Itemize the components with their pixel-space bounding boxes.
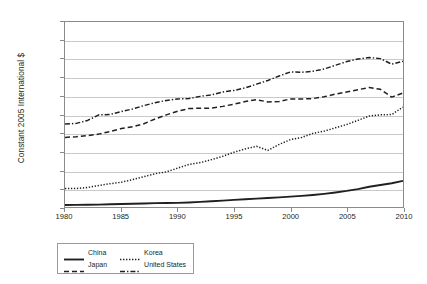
plot-area <box>64 21 404 208</box>
legend-label: United States <box>144 261 186 268</box>
x-axis-tick <box>64 208 65 212</box>
chart-figure: Constant 2005 International $ 05,00010,0… <box>0 0 427 284</box>
series-lines <box>65 22 403 207</box>
legend-item: United States <box>120 260 186 269</box>
x-axis-tick-label: 2000 <box>271 212 311 221</box>
legend-key-japan <box>64 261 84 268</box>
legend-item: Korea <box>120 248 186 257</box>
x-axis-tick-label: 1990 <box>157 212 197 221</box>
x-axis-tick <box>404 208 405 212</box>
series-line-united-states <box>65 58 403 125</box>
legend-item: China <box>64 248 107 257</box>
legend-label: Korea <box>144 249 163 256</box>
series-line-korea <box>65 107 403 188</box>
x-axis-tick-label: 1985 <box>101 212 141 221</box>
legend-item: Japan <box>64 260 107 269</box>
x-axis-tick-label: 2010 <box>384 212 424 221</box>
legend-key-united-states <box>120 261 140 268</box>
legend-key-china <box>64 249 84 256</box>
x-axis-tick <box>291 208 292 212</box>
x-axis-tick <box>234 208 235 212</box>
legend-label: China <box>88 249 106 256</box>
x-axis-tick-label: 1980 <box>44 212 84 221</box>
x-axis-tick-label: 1995 <box>214 212 254 221</box>
x-axis-tick-label: 2005 <box>327 212 367 221</box>
x-axis-tick <box>121 208 122 212</box>
x-axis-tick <box>177 208 178 212</box>
legend-key-korea <box>120 249 140 256</box>
x-axis-tick <box>347 208 348 212</box>
legend: ChinaKoreaJapanUnited States <box>57 243 194 274</box>
legend-label: Japan <box>88 261 107 268</box>
series-line-china <box>65 181 403 205</box>
y-axis-title: Constant 2005 International $ <box>17 15 31 201</box>
